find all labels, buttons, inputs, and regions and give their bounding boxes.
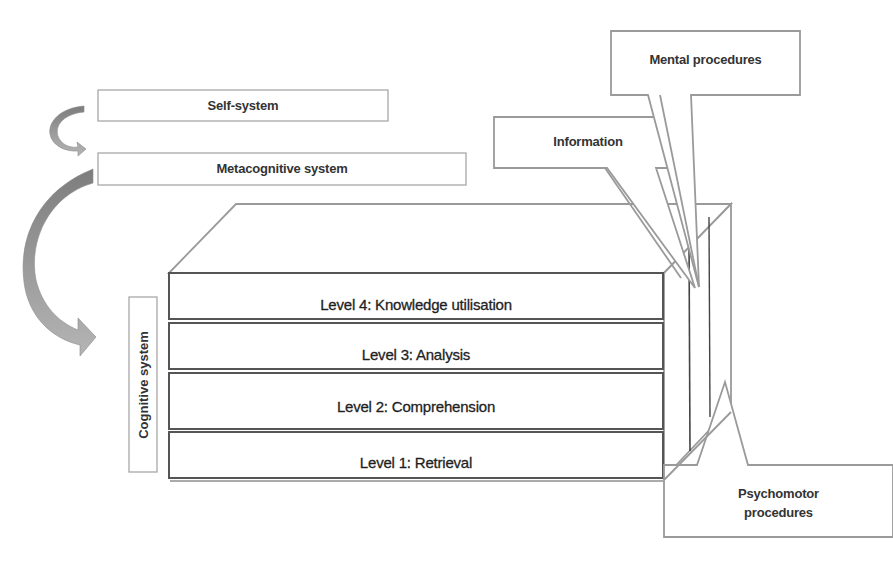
level-4-label: Level 4: Knowledge utilisation: [169, 296, 663, 313]
information-label: Information: [494, 134, 682, 149]
psychomotor-label-line1: Psychomotor: [664, 486, 893, 501]
level-1-label: Level 1: Retrieval: [169, 454, 663, 471]
domain-divider-2: [709, 217, 710, 417]
cognitive-system-label: Cognitive system: [136, 298, 152, 473]
level-3-label: Level 3: Analysis: [169, 346, 663, 363]
curved-arrow-large-icon: [23, 169, 96, 356]
level-2-label: Level 2: Comprehension: [169, 398, 663, 415]
curved-arrow-small-icon: [50, 106, 86, 156]
psychomotor-label-line2: procedures: [664, 505, 893, 520]
self-system-label: Self-system: [98, 98, 388, 113]
taxonomy-diagram: [0, 0, 893, 565]
metacognitive-system-label: Metacognitive system: [98, 161, 466, 176]
mental-procedures-label: Mental procedures: [611, 52, 800, 67]
